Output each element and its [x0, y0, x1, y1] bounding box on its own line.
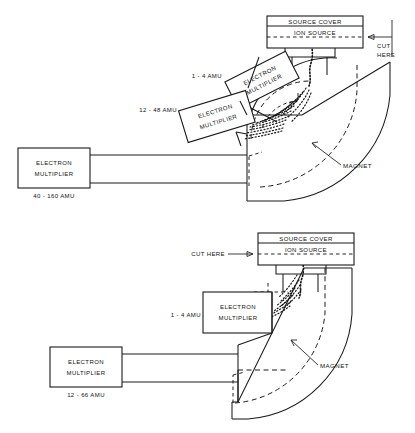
em2-line2-bottom: MULTIPLIER — [67, 370, 106, 376]
electron-multiplier-40-160-top — [18, 148, 247, 188]
cut-here-label-bottom: CUT HERE — [191, 251, 225, 257]
magnet-label-bottom: MAGNET — [320, 362, 349, 369]
ion-source-label-bottom: ION SOURCE — [285, 247, 327, 253]
source-cover-label-bottom: SOURCE COVER — [279, 236, 333, 242]
em1-line1-bottom: ELECTRON — [220, 304, 256, 310]
magnet-leader-bottom — [291, 340, 318, 365]
em1-range-top: 1 - 4 AMU — [192, 73, 222, 79]
cut-here-label-top-line2: HERE — [377, 52, 395, 58]
electron-multiplier-12-48-top — [179, 91, 256, 143]
magnet-label-top: MAGNET — [343, 162, 372, 169]
em1-range-bottom: 1 - 4 AMU — [171, 312, 201, 318]
em1-line2-bottom: MULTIPLIER — [219, 315, 258, 321]
ion-path-dashed-bottom — [233, 268, 325, 403]
em2-line1-bottom: ELECTRON — [68, 359, 104, 365]
ion-source-label-top: ION SOURCE — [294, 30, 336, 36]
cut-here-pointer-bottom — [228, 252, 253, 257]
source-cover-label-top: SOURCE COVER — [288, 19, 342, 25]
bottom-diagram: MAGNET SOURCE COVER ION SOURCE — [0, 225, 415, 433]
em3-line2-top: MULTIPLIER — [35, 171, 74, 177]
cut-here-pointer-top — [368, 20, 392, 55]
em2-range-bottom: 12 - 66 AMU — [67, 392, 105, 398]
em3-line1-top: ELECTRON — [36, 160, 72, 166]
em3-range-top: 40 - 160 AMU — [33, 193, 75, 199]
magnet-sector-bottom — [232, 268, 352, 419]
cut-here-label-top-line1: CUT — [377, 43, 391, 49]
figure-canvas: MAGNET SOURCE COV — [0, 0, 415, 433]
em2-range-top: 12 - 48 AMU — [139, 107, 177, 113]
top-diagram: MAGNET SOURCE COV — [0, 0, 415, 225]
